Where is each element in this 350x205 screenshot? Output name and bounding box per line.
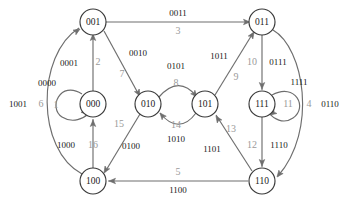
edge-index-10: 10 — [247, 57, 257, 67]
edge-index-4: 4 — [307, 99, 312, 109]
edge-label-0110: 0110 — [321, 100, 339, 109]
state-node-label-110: 110 — [255, 176, 269, 186]
state-node-110[interactable]: 110 — [249, 168, 275, 194]
edge-label-0001: 0001 — [60, 59, 78, 68]
edge-label-0111: 0111 — [269, 58, 286, 67]
edge-100-to-001 — [47, 28, 82, 174]
state-node-label-001: 001 — [86, 17, 101, 27]
edge-label-0000: 0000 — [38, 79, 56, 88]
edge-label-1001: 1001 — [9, 100, 27, 109]
edge-label-1100: 1100 — [169, 186, 187, 195]
state-node-label-000: 000 — [86, 99, 101, 109]
edge-index-9: 9 — [234, 72, 239, 82]
state-node-001[interactable]: 001 — [80, 9, 106, 35]
edge-index-12: 12 — [247, 140, 257, 150]
edge-label-1011: 1011 — [210, 52, 228, 61]
state-node-101[interactable]: 101 — [192, 91, 218, 117]
state-node-label-010: 010 — [141, 99, 156, 109]
edge-index-8: 8 — [174, 78, 179, 88]
state-node-label-011: 011 — [255, 17, 269, 27]
edge-label-0010: 0010 — [129, 49, 147, 58]
state-node-100[interactable]: 100 — [80, 168, 106, 194]
state-node-010[interactable]: 010 — [135, 91, 161, 117]
edge-index-11: 11 — [283, 99, 293, 109]
edge-index-7: 7 — [120, 69, 125, 79]
edge-label-1000: 1000 — [57, 141, 75, 150]
edge-index-1: 1 — [54, 100, 59, 110]
edge-001-to-010 — [104, 31, 139, 95]
arrow-100-to-001 — [73, 27, 81, 35]
edge-index-5: 5 — [176, 167, 181, 177]
edge-index-2: 2 — [96, 57, 101, 67]
edge-index-15: 15 — [114, 119, 124, 129]
state-node-111[interactable]: 111 — [249, 91, 275, 117]
state-node-011[interactable]: 011 — [249, 9, 275, 35]
state-node-000[interactable]: 000 — [80, 91, 106, 117]
edge-label-1010: 1010 — [167, 135, 185, 144]
edge-index-13: 13 — [226, 124, 236, 134]
edge-label-1110: 1110 — [270, 141, 287, 150]
state-node-label-111: 111 — [255, 99, 269, 109]
edge-label-1111: 1111 — [291, 78, 308, 87]
edge-label-1101: 1101 — [203, 145, 221, 154]
edge-label-0100: 0100 — [122, 142, 140, 151]
edge-label-0011: 0011 — [169, 9, 187, 18]
edge-index-6: 6 — [39, 99, 44, 109]
state-node-label-101: 101 — [198, 99, 213, 109]
edge-index-16: 16 — [88, 140, 98, 150]
edge-index-3: 3 — [176, 26, 181, 36]
edge-index-14: 14 — [171, 120, 181, 130]
state-diagram-canvas: 001011000010101111100110 001130000100012… — [0, 0, 350, 205]
state-node-label-100: 100 — [86, 176, 101, 186]
edge-label-0101: 0101 — [167, 62, 185, 71]
